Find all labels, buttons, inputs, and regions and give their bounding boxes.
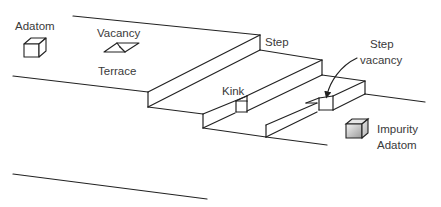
- label-kink: Kink: [222, 85, 244, 98]
- step-2: [203, 60, 322, 137]
- label-step-vacancy-2: vacancy: [360, 54, 402, 67]
- diagram-canvas: [0, 0, 441, 207]
- label-impurity-1: Impurity: [377, 123, 418, 136]
- label-adatom: Adatom: [15, 20, 55, 33]
- label-step-vacancy-1: Step: [370, 38, 394, 51]
- bottom-terrace-edge: [13, 174, 207, 199]
- impurity-adatom-cube: [346, 119, 368, 138]
- label-impurity-2: Adatom: [377, 139, 417, 152]
- step-vacancy: [306, 96, 333, 110]
- vacancy-hole: [104, 43, 139, 52]
- adatom-cube: [24, 38, 46, 57]
- label-terrace: Terrace: [98, 65, 136, 78]
- step-1: [148, 35, 322, 114]
- surface-defects-diagram: Adatom Vacancy Terrace Step Kink Step va…: [0, 0, 441, 207]
- label-step: Step: [265, 36, 289, 49]
- label-vacancy: Vacancy: [97, 27, 140, 40]
